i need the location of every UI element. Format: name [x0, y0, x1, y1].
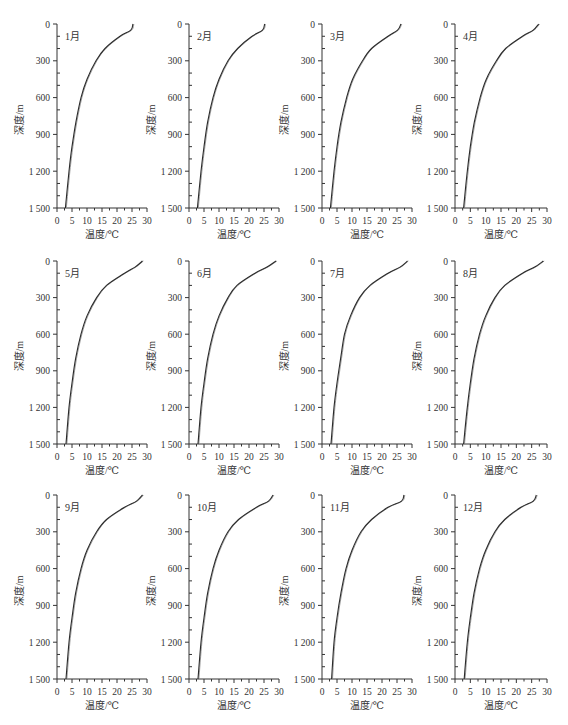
- y-tick-label: 1 500: [427, 675, 449, 685]
- y-tick-label: 1 500: [427, 440, 449, 450]
- y-tick-label: 900: [36, 130, 51, 140]
- panel-4: 03006009001 2001 500051015202530温度/℃深度/m…: [411, 20, 552, 241]
- y-tick-label: 900: [36, 601, 51, 611]
- profile-line: [330, 24, 401, 208]
- y-tick-label: 900: [168, 130, 183, 140]
- y-tick-label: 1 500: [294, 204, 316, 214]
- panel-title: 4月: [463, 31, 478, 42]
- y-tick-label: 1 500: [427, 204, 449, 214]
- panel-title: 7月: [330, 268, 345, 279]
- y-axis-label: 深度/m: [145, 104, 157, 135]
- y-tick-label: 300: [168, 293, 183, 303]
- y-tick-label: 300: [301, 527, 316, 537]
- panel-title: 3月: [330, 31, 345, 42]
- y-tick-label: 900: [168, 366, 183, 376]
- x-tick-label: 20: [512, 452, 522, 462]
- y-axis-label: 深度/m: [145, 575, 157, 606]
- x-tick-label: 25: [127, 216, 137, 226]
- x-tick-label: 25: [259, 216, 269, 226]
- profile-line-secondary: [199, 495, 274, 679]
- y-axis-label: 深度/m: [278, 341, 290, 372]
- x-tick-label: 20: [112, 216, 122, 226]
- temperature-depth-profile-grid: 03006009001 2001 500051015202530温度/℃深度/m…: [0, 0, 568, 725]
- y-tick-label: 1 200: [427, 403, 449, 413]
- y-tick-label: 0: [310, 20, 315, 30]
- y-tick-label: 600: [434, 564, 449, 574]
- x-tick-label: 20: [377, 452, 387, 462]
- y-tick-label: 600: [36, 330, 51, 340]
- profile-line-secondary: [199, 261, 277, 444]
- profile-line: [464, 24, 539, 208]
- x-tick-label: 25: [392, 216, 402, 226]
- panel-2: 03006009001 2001 500051015202530温度/℃深度/m…: [145, 20, 284, 241]
- profile-line: [464, 261, 544, 444]
- profile-line-secondary: [66, 24, 134, 208]
- y-tick-label: 1 200: [29, 403, 51, 413]
- x-tick-label: 30: [142, 216, 152, 226]
- y-tick-label: 300: [301, 293, 316, 303]
- x-tick-label: 25: [392, 452, 402, 462]
- x-axis-label: 温度/℃: [484, 464, 518, 476]
- x-tick-label: 0: [187, 216, 192, 226]
- x-tick-label: 15: [229, 452, 239, 462]
- y-tick-label: 1 200: [427, 638, 449, 648]
- y-tick-label: 1 500: [294, 675, 316, 685]
- y-tick-label: 1 200: [29, 167, 51, 177]
- x-tick-label: 30: [407, 687, 417, 697]
- y-tick-label: 300: [434, 293, 449, 303]
- x-tick-label: 0: [453, 216, 458, 226]
- y-tick-label: 600: [434, 330, 449, 340]
- y-tick-label: 300: [434, 527, 449, 537]
- y-tick-label: 600: [168, 564, 183, 574]
- y-tick-label: 600: [36, 564, 51, 574]
- x-tick-label: 0: [187, 687, 192, 697]
- x-tick-label: 0: [453, 452, 458, 462]
- y-tick-label: 900: [301, 366, 316, 376]
- y-tick-label: 0: [177, 491, 182, 501]
- profile-line: [65, 24, 132, 208]
- panel-title: 6月: [197, 268, 212, 279]
- x-tick-label: 30: [274, 452, 284, 462]
- y-tick-label: 1 200: [294, 638, 316, 648]
- x-tick-label: 25: [527, 687, 537, 697]
- panel-3: 03006009001 2001 500051015202530温度/℃深度/m…: [278, 20, 417, 241]
- x-tick-label: 0: [320, 687, 325, 697]
- y-tick-label: 1 200: [161, 167, 183, 177]
- x-tick-label: 5: [202, 216, 207, 226]
- x-tick-label: 10: [214, 216, 224, 226]
- x-tick-label: 25: [127, 452, 137, 462]
- x-tick-label: 20: [244, 687, 254, 697]
- profile-line-secondary: [332, 261, 409, 444]
- x-tick-label: 10: [347, 687, 357, 697]
- y-tick-label: 0: [177, 20, 182, 30]
- x-tick-label: 10: [347, 216, 357, 226]
- x-tick-label: 15: [362, 452, 372, 462]
- y-tick-label: 600: [301, 93, 316, 103]
- y-tick-label: 1 500: [294, 440, 316, 450]
- x-tick-label: 15: [496, 452, 506, 462]
- y-tick-label: 0: [177, 257, 182, 267]
- y-tick-label: 900: [301, 601, 316, 611]
- x-tick-label: 10: [82, 216, 92, 226]
- y-tick-label: 1 500: [161, 440, 183, 450]
- panel-11: 03006009001 2001 500051015202530温度/℃深度/m…: [278, 491, 417, 712]
- x-axis-label: 温度/℃: [350, 699, 384, 711]
- y-tick-label: 1 200: [427, 167, 449, 177]
- x-axis-label: 温度/℃: [85, 228, 119, 240]
- panel-title: 12月: [463, 502, 483, 513]
- x-tick-label: 5: [468, 216, 473, 226]
- y-tick-label: 300: [36, 293, 51, 303]
- panel-title: 11月: [330, 502, 350, 513]
- x-axis-label: 温度/℃: [217, 228, 251, 240]
- x-tick-label: 20: [377, 216, 387, 226]
- panel-12: 03006009001 2001 500051015202530温度/℃深度/m…: [411, 491, 552, 712]
- x-tick-label: 5: [70, 216, 75, 226]
- x-tick-label: 25: [259, 452, 269, 462]
- profile-line-secondary: [67, 495, 143, 679]
- x-tick-label: 10: [481, 452, 491, 462]
- y-tick-label: 1 500: [29, 675, 51, 685]
- x-tick-label: 30: [542, 216, 552, 226]
- panel-title: 10月: [197, 502, 217, 513]
- x-tick-label: 30: [542, 452, 552, 462]
- profile-line-secondary: [67, 261, 143, 444]
